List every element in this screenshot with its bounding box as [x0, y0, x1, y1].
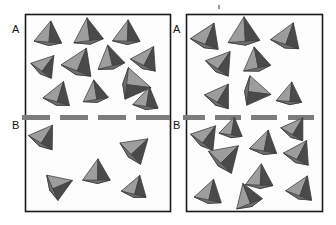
separator-dash — [183, 115, 205, 120]
scan-speck — [218, 5, 220, 9]
right-panel-label-b: B — [173, 120, 180, 131]
separator-dash — [22, 115, 50, 120]
figure-canvas: A B A B — [0, 0, 336, 225]
separator-dash — [60, 115, 88, 120]
tetrahedra-diagram — [0, 0, 336, 225]
separator-dash — [251, 115, 277, 120]
separator-dash — [136, 115, 170, 120]
separator-dash — [98, 115, 126, 120]
left-panel-label-b: B — [12, 120, 19, 131]
separator-dash — [215, 115, 241, 120]
right-panel-label-a: A — [173, 24, 180, 35]
left-panel-label-a: A — [12, 24, 19, 35]
